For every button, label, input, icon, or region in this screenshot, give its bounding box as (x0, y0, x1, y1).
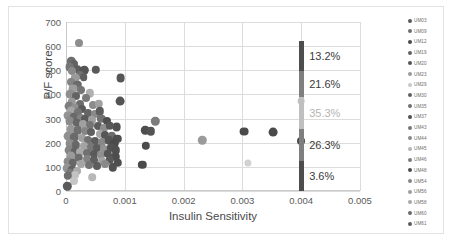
percentage-label: 3.6% (309, 170, 334, 182)
legend-item-um37[interactable]: UM37 (408, 112, 427, 121)
legend-item-label: UM29 (414, 82, 427, 87)
y-tick-label: 100 (45, 161, 61, 172)
legend-item-label: UM35 (414, 104, 427, 109)
legend-item-um56[interactable]: UM56 (408, 187, 427, 196)
percentage-label: 13.2% (309, 50, 340, 62)
legend-marker-icon (408, 115, 412, 119)
legend-item-um19[interactable]: UM19 (408, 48, 427, 57)
legend-item-label: UM43 (414, 125, 427, 130)
scatter-point (82, 94, 90, 102)
legend-item-label: UM60 (414, 211, 427, 216)
legend-marker-icon (408, 104, 412, 108)
percentage-bar (299, 22, 304, 191)
legend-marker-icon (408, 179, 412, 183)
legend-item-label: UM46 (414, 157, 427, 162)
legend-marker-icon (408, 200, 412, 204)
legend-item-um03[interactable]: UM03 (408, 16, 427, 25)
x-tick-label: 0.005 (348, 195, 372, 206)
legend-item-um12[interactable]: UM12 (408, 37, 427, 46)
x-tick-label: 0.004 (289, 195, 313, 206)
scatter-point (269, 128, 278, 137)
legend-item-label: UM12 (414, 39, 427, 44)
legend-marker-icon (408, 136, 412, 140)
scatter-point (109, 163, 117, 171)
legend-marker-icon (408, 83, 412, 87)
legend-marker-icon (408, 158, 412, 162)
bar-segment (299, 71, 304, 97)
legend-item-um44[interactable]: UM44 (408, 134, 427, 143)
legend-item-label: UM03 (414, 18, 427, 23)
x-axis-title: Insulin Sensitivity (66, 210, 360, 222)
legend-item-um29[interactable]: UM29 (408, 80, 427, 89)
legend-item-um09[interactable]: UM09 (408, 27, 427, 36)
legend-item-um43[interactable]: UM43 (408, 123, 427, 132)
gridline-horizontal (66, 70, 360, 71)
legend-marker-icon (408, 190, 412, 194)
percentage-label: 21.6% (309, 78, 340, 90)
x-tick-label: 0.001 (113, 195, 137, 206)
y-tick-label: 700 (45, 17, 61, 28)
scatter-point (92, 65, 100, 73)
legend-marker-icon (408, 147, 412, 151)
percentage-label: 26.3% (309, 139, 340, 151)
legend-marker-icon (408, 168, 412, 172)
legend-item-um58[interactable]: UM58 (408, 198, 427, 207)
legend-marker-icon (408, 93, 412, 97)
scatter-point (138, 161, 146, 169)
legend: UM03UM09UM12UM19UM20UM23UM29UM30UM35UM37… (408, 16, 452, 230)
bar-segment (299, 41, 304, 70)
legend-item-label: UM61 (414, 221, 427, 226)
legend-marker-icon (408, 51, 412, 55)
y-tick-label: 200 (45, 137, 61, 148)
x-axis-tick-labels: 00.0010.0020.0030.0040.005 (66, 195, 360, 209)
legend-item-label: UM45 (414, 146, 427, 151)
legend-item-um35[interactable]: UM35 (408, 102, 427, 111)
legend-item-label: UM58 (414, 200, 427, 205)
scatter-point (75, 39, 83, 47)
legend-item-label: UM20 (414, 61, 427, 66)
legend-item-um48[interactable]: UM48 (408, 166, 427, 175)
scatter-point (151, 117, 159, 125)
legend-item-label: UM56 (414, 189, 427, 194)
legend-item-label: UM44 (414, 136, 427, 141)
legend-item-label: UM37 (414, 114, 427, 119)
y-tick-label: 400 (45, 89, 61, 100)
y-tick-label: 500 (45, 65, 61, 76)
legend-item-um23[interactable]: UM23 (408, 70, 427, 79)
legend-item-um54[interactable]: UM54 (408, 177, 427, 186)
legend-item-um30[interactable]: UM30 (408, 91, 427, 100)
scatter-point (142, 141, 150, 149)
gridline-horizontal (66, 191, 360, 192)
gridline-vertical (242, 22, 243, 191)
gridline-vertical (184, 22, 185, 191)
y-tick-label: 300 (45, 113, 61, 124)
legend-marker-icon (408, 61, 412, 65)
legend-item-label: UM48 (414, 168, 427, 173)
legend-item-um46[interactable]: UM46 (408, 155, 427, 164)
scatter-point (93, 162, 101, 170)
scatter-point (89, 174, 97, 182)
legend-marker-icon (408, 19, 412, 23)
legend-marker-icon (408, 40, 412, 44)
y-tick-label: 600 (45, 41, 61, 52)
scatter-point (116, 96, 125, 105)
bar-segment (299, 129, 304, 161)
x-axis-line (66, 190, 360, 191)
scatter-point (80, 73, 88, 81)
legend-item-label: UM23 (414, 72, 427, 77)
legend-marker-icon (408, 211, 412, 215)
legend-item-um45[interactable]: UM45 (408, 144, 427, 153)
gridline-vertical (360, 22, 361, 191)
gridline-horizontal (66, 46, 360, 47)
y-axis-tick-labels: 0100200300400500600700 (17, 22, 61, 191)
legend-item-um60[interactable]: UM60 (408, 209, 427, 218)
gridline-vertical (125, 22, 126, 191)
gridline-horizontal (66, 22, 360, 23)
plot-area: 13.2%21.6%35.3%26.3%3.6% (66, 22, 360, 191)
legend-item-label: UM54 (414, 179, 427, 184)
legend-item-um61[interactable]: UM61 (408, 219, 427, 228)
legend-marker-icon (408, 72, 412, 76)
legend-item-um20[interactable]: UM20 (408, 59, 427, 68)
x-tick-label: 0.002 (172, 195, 196, 206)
chart-frame: P/F score 0100200300400500600700 13.2%21… (8, 6, 444, 234)
